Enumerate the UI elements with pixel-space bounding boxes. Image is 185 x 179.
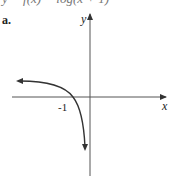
y-axis-label: y bbox=[81, 12, 86, 27]
x-axis-label: x bbox=[162, 99, 167, 114]
curve-left-arrow-icon bbox=[16, 78, 23, 84]
graph bbox=[0, 0, 185, 179]
curve bbox=[20, 81, 85, 147]
curve-down-arrow-icon bbox=[82, 144, 88, 151]
tick-label-neg1: -1 bbox=[58, 101, 67, 113]
